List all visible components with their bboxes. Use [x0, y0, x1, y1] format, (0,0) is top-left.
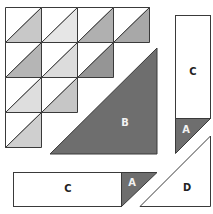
quilt-diagram: B C A C A D	[0, 0, 213, 214]
label-a-horizontal: A	[128, 176, 136, 189]
label-b: B	[121, 116, 129, 129]
label-d: D	[183, 181, 191, 194]
label-c-horizontal: C	[64, 182, 71, 195]
label-c-vertical: C	[189, 65, 196, 78]
label-a-vertical: A	[182, 123, 190, 136]
